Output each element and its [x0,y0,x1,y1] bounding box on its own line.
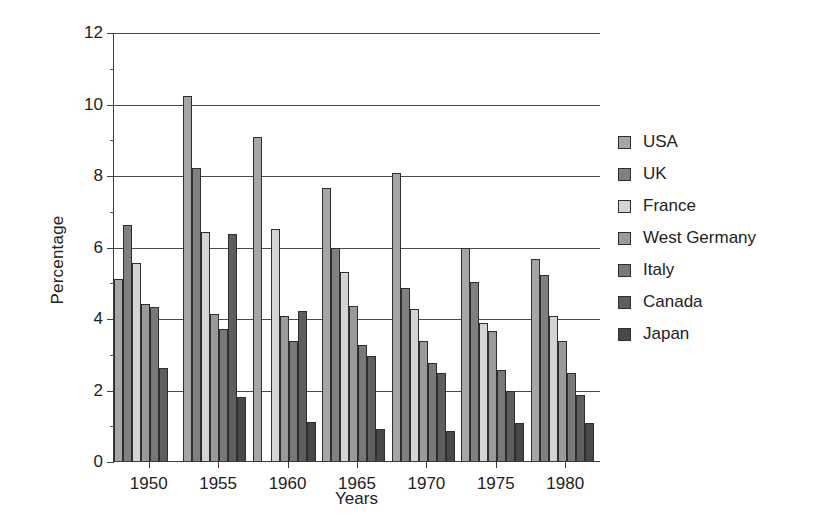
bar-west-germany-1970 [419,341,428,461]
legend-swatch-icon [618,296,631,309]
bar-uk-1965 [331,248,340,461]
bar-italy-1955 [219,329,228,461]
bar-japan-1955 [237,397,246,461]
bar-japan-1975 [515,423,524,461]
bar-uk-1955 [192,168,201,461]
legend-label: France [643,196,696,216]
bar-west-germany-1960 [280,316,289,461]
bar-france-1975 [479,323,488,461]
bar-japan-1960 [307,422,316,461]
bar-uk-1980 [540,275,549,461]
legend-label: Italy [643,260,674,280]
legend-item-japan[interactable]: Japan [618,318,756,350]
bar-west-germany-1975 [488,331,497,461]
x-axis-title: Years [113,489,600,509]
bar-italy-1970 [428,363,437,461]
bar-japan-1980 [585,423,594,461]
y-tick-label-8: 8 [94,166,103,186]
legend-item-france[interactable]: France [618,190,756,222]
bar-usa-1970 [392,173,401,461]
legend-swatch-icon [618,328,631,341]
bar-italy-1960 [289,341,298,461]
y-tick-12 [107,33,114,34]
y-tick-0 [107,462,114,463]
x-tick-1975 [496,461,497,468]
bar-canada-1980 [576,395,585,461]
bar-west-germany-1965 [349,306,358,462]
bar-canada-1950 [159,368,168,461]
bar-chart: Percentage 1950195519601965197019751980 … [0,0,830,519]
legend-item-usa[interactable]: USA [618,126,756,158]
y-tick-minor-7 [110,212,114,213]
y-tick-8 [107,176,114,177]
bar-canada-1965 [367,356,376,461]
y-tick-6 [107,248,114,249]
bar-usa-1965 [322,188,331,461]
bar-uk-1975 [470,282,479,461]
bar-france-1970 [410,309,419,461]
legend-swatch-icon [618,200,631,213]
bar-usa-1975 [461,248,470,461]
bar-uk-1970 [401,288,410,461]
legend-label: UK [643,164,667,184]
legend-label: Japan [643,324,689,344]
legend-label: Canada [643,292,703,312]
bar-france-1960 [271,229,280,461]
x-tick-1965 [357,461,358,468]
bar-usa-1960 [253,137,262,461]
bar-canada-1960 [298,311,307,461]
y-tick-label-6: 6 [94,238,103,258]
y-tick-label-4: 4 [94,309,103,329]
bar-canada-1970 [437,373,446,461]
bar-france-1955 [201,232,210,461]
y-tick-label-0: 0 [94,452,103,472]
bar-usa-1955 [183,96,192,461]
legend-item-canada[interactable]: Canada [618,286,756,318]
y-tick-label-2: 2 [94,381,103,401]
legend-swatch-icon [618,264,631,277]
gridline-y-12 [114,33,600,34]
x-tick-1950 [149,461,150,468]
x-tick-1960 [288,461,289,468]
bar-japan-1965 [376,429,385,461]
bar-italy-1980 [567,373,576,461]
y-axis-title: Percentage [48,215,68,304]
bar-canada-1955 [228,234,237,461]
bar-italy-1965 [358,345,367,461]
legend-label: West Germany [643,228,756,248]
y-tick-minor-9 [110,140,114,141]
bar-france-1965 [340,272,349,461]
y-tick-minor-11 [110,69,114,70]
bar-west-germany-1950 [141,304,150,461]
bar-usa-1950 [114,279,123,461]
y-tick-4 [107,319,114,320]
legend-swatch-icon [618,168,631,181]
bar-west-germany-1955 [210,314,219,461]
x-tick-1955 [218,461,219,468]
bar-japan-1970 [446,431,455,461]
legend-label: USA [643,132,678,152]
legend-item-west-germany[interactable]: West Germany [618,222,756,254]
y-tick-2 [107,391,114,392]
x-tick-1980 [565,461,566,468]
bar-france-1980 [549,316,558,461]
y-tick-label-10: 10 [84,95,103,115]
legend-swatch-icon [618,232,631,245]
bar-uk-1950 [123,225,132,461]
y-tick-10 [107,105,114,106]
bar-usa-1980 [531,259,540,461]
bar-west-germany-1980 [558,341,567,461]
legend-item-italy[interactable]: Italy [618,254,756,286]
y-tick-label-12: 12 [84,23,103,43]
bar-france-1950 [132,263,141,461]
plot-area: 1950195519601965197019751980 024681012 [113,33,600,462]
bar-italy-1975 [497,370,506,461]
bar-canada-1975 [506,391,515,461]
chart-legend: USAUKFranceWest GermanyItalyCanadaJapan [618,126,756,350]
legend-swatch-icon [618,136,631,149]
x-tick-1970 [426,461,427,468]
bar-italy-1950 [150,307,159,461]
legend-item-uk[interactable]: UK [618,158,756,190]
